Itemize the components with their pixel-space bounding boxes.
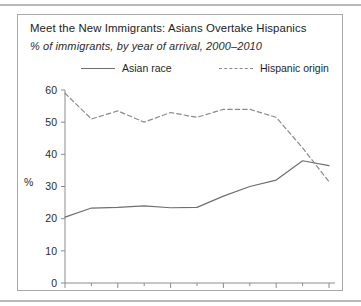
y-tick-label: 60 bbox=[45, 84, 57, 96]
chart-axes bbox=[61, 90, 335, 288]
x-tick-label: 2004 bbox=[159, 291, 183, 292]
bottom-divider-rule bbox=[0, 300, 361, 302]
y-tick-label: 50 bbox=[45, 116, 57, 128]
x-tick-label: 2006 bbox=[212, 291, 236, 292]
line-chart-svg: 0102030405060 200020022004200620082010 bbox=[18, 15, 344, 292]
y-tick-label: 40 bbox=[45, 148, 57, 160]
y-tick-labels: 0102030405060 bbox=[45, 84, 57, 289]
top-divider-rule bbox=[0, 4, 361, 6]
series-line-asian-race bbox=[65, 161, 329, 217]
x-tick-label: 2002 bbox=[106, 291, 130, 292]
data-series-group bbox=[65, 93, 329, 217]
x-tick-label: 2008 bbox=[265, 291, 289, 292]
y-tick-label: 20 bbox=[45, 212, 57, 224]
x-tick-label: 2000 bbox=[53, 291, 77, 292]
series-line-hispanic-origin bbox=[65, 93, 329, 181]
x-tick-label: 2010 bbox=[317, 291, 341, 292]
y-tick-label: 30 bbox=[45, 180, 57, 192]
plot-area: 0102030405060 200020022004200620082010 bbox=[18, 15, 344, 292]
y-tick-label: 0 bbox=[51, 277, 57, 289]
figure-panel: Meet the New Immigrants: Asians Overtake… bbox=[17, 14, 343, 291]
y-tick-label: 10 bbox=[45, 245, 57, 257]
x-tick-labels: 200020022004200620082010 bbox=[53, 291, 341, 292]
